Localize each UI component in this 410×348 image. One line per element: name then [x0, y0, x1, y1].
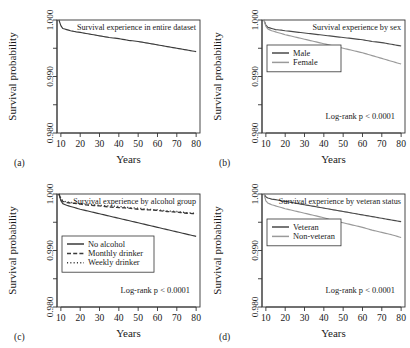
x-tick-label: 30: [95, 312, 105, 323]
y-axis-title: Survival probability: [6, 32, 18, 121]
x-tick-label: 60: [358, 312, 368, 323]
x-tick-label: 70: [377, 138, 387, 149]
x-tick-label: 10: [261, 312, 271, 323]
x-tick-label: 10: [56, 138, 66, 149]
panel-d: 1.0000.9900.9801020304050607080YearsSurv…: [205, 174, 410, 348]
x-tick-label: 70: [172, 138, 182, 149]
x-tick-label: 30: [300, 138, 310, 149]
legend-label: Weekly drinker: [88, 258, 140, 267]
x-tick-label: 20: [75, 312, 85, 323]
x-tick-label: 60: [153, 312, 163, 323]
y-axis-title: Survival probability: [211, 32, 223, 121]
pvalue-annotation: Log-rank p < 0.0001: [121, 286, 190, 295]
y-tick-label: 0.980: [250, 122, 260, 143]
x-tick-label: 80: [396, 312, 406, 323]
plot-title: Survival experience by alcohol group: [73, 197, 196, 206]
x-tick-label: 40: [319, 312, 329, 323]
legend-label: Monthly drinker: [88, 249, 143, 258]
x-tick-label: 50: [133, 312, 143, 323]
plot-title: Survival experience in entire dataset: [77, 23, 197, 32]
legend-label: Female: [293, 58, 318, 67]
y-tick-label: 0.980: [45, 122, 55, 143]
x-tick-label: 50: [133, 138, 143, 149]
x-tick-label: 10: [261, 138, 271, 149]
y-tick-label: 0.990: [45, 240, 55, 261]
y-axis-title: Survival probability: [6, 206, 18, 295]
y-tick-label: 1.000: [250, 9, 260, 30]
y-tick-label: 1.000: [45, 183, 55, 204]
y-axis-title: Survival probability: [211, 206, 223, 295]
x-tick-label: 80: [191, 138, 201, 149]
panel-tag: (c): [14, 331, 25, 343]
y-tick-label: 1.000: [45, 9, 55, 30]
y-tick-label: 0.990: [250, 240, 260, 261]
panel-c: 1.0000.9900.9801020304050607080YearsSurv…: [0, 174, 205, 348]
x-tick-label: 70: [172, 312, 182, 323]
plot-title: Survival experience by sex: [313, 23, 401, 32]
x-axis-title: Years: [321, 327, 346, 339]
y-tick-label: 0.990: [250, 66, 260, 87]
panel-tag: (d): [219, 331, 230, 343]
survival-curves-figure: 1.0000.9900.9801020304050607080YearsSurv…: [0, 0, 410, 348]
x-axis-title: Years: [321, 153, 346, 165]
y-tick-label: 0.980: [45, 296, 55, 317]
x-tick-label: 80: [396, 138, 406, 149]
x-tick-label: 30: [95, 138, 105, 149]
x-tick-label: 70: [377, 312, 387, 323]
x-tick-label: 20: [280, 312, 290, 323]
x-tick-label: 40: [319, 138, 329, 149]
legend-label: Non-veteran: [293, 232, 336, 241]
x-tick-label: 80: [191, 312, 201, 323]
x-tick-label: 40: [114, 138, 124, 149]
pvalue-annotation: Log-rank p < 0.0001: [326, 112, 395, 121]
panel-tag: (a): [14, 157, 25, 169]
y-tick-label: 1.000: [250, 183, 260, 204]
x-tick-label: 50: [338, 312, 348, 323]
panel-tag: (b): [219, 157, 230, 169]
panel-b: 1.0000.9900.9801020304050607080YearsSurv…: [205, 0, 410, 174]
x-tick-label: 50: [338, 138, 348, 149]
x-axis-title: Years: [116, 327, 141, 339]
x-tick-label: 20: [75, 138, 85, 149]
x-axis-title: Years: [116, 153, 141, 165]
plot-title: Survival experience by veteran status: [279, 197, 401, 206]
y-tick-label: 0.980: [250, 296, 260, 317]
x-tick-label: 60: [358, 138, 368, 149]
x-tick-label: 60: [153, 138, 163, 149]
pvalue-annotation: Log-rank p < 0.0001: [326, 286, 395, 295]
x-tick-label: 10: [56, 312, 66, 323]
legend-label: No alcohol: [88, 240, 126, 249]
x-tick-label: 30: [300, 312, 310, 323]
legend-label: Male: [293, 49, 310, 58]
legend-label: Veteran: [293, 223, 319, 232]
x-tick-label: 40: [114, 312, 124, 323]
y-tick-label: 0.990: [45, 66, 55, 87]
panel-a: 1.0000.9900.9801020304050607080YearsSurv…: [0, 0, 205, 174]
x-tick-label: 20: [280, 138, 290, 149]
plot-frame: [57, 20, 200, 133]
